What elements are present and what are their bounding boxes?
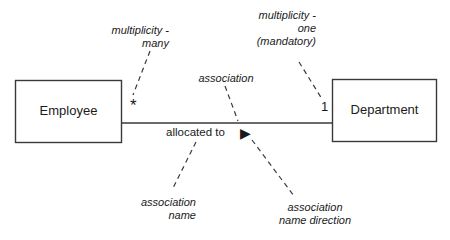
annotation-association-name: association name — [112, 196, 196, 222]
class-name-department: Department — [332, 102, 437, 117]
diagram-canvas: Employee Department * 1 allocated to ▶ m… — [0, 0, 450, 240]
association-direction-triangle-icon: ▶ — [240, 125, 251, 141]
annotation-association-name-direction: association name direction — [256, 201, 374, 227]
annotation-association: association — [186, 72, 266, 85]
annotation-multiplicity-one: multiplicity - one (mandatory) — [228, 9, 316, 48]
association-name-label: allocated to — [166, 126, 225, 138]
annotation-multiplicity-many: multiplicity - many — [90, 24, 169, 50]
class-name-employee: Employee — [15, 103, 122, 118]
leader-line-multiplicity-one — [299, 62, 322, 99]
leader-line-association-name — [172, 142, 196, 190]
leader-line-multiplicity-many — [133, 51, 150, 95]
multiplicity-target: 1 — [321, 99, 328, 114]
diagram-lines — [0, 0, 450, 240]
multiplicity-source: * — [130, 99, 137, 112]
leader-line-association — [225, 86, 238, 121]
leader-line-association-name-direction — [252, 140, 294, 196]
